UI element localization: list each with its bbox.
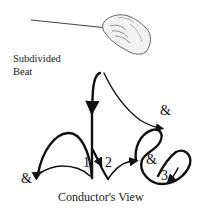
diagram-title-line1: Subdivided bbox=[13, 54, 61, 65]
beat-label-and-left: & bbox=[21, 172, 32, 186]
beat-label-one: 1 bbox=[83, 156, 90, 170]
beat-label-three: 3 bbox=[161, 169, 168, 183]
beat-label-and-top: & bbox=[160, 104, 171, 118]
down-arrow-icon bbox=[89, 108, 95, 116]
diagram-title-line2: Beat bbox=[13, 67, 32, 78]
beat-label-and-right: & bbox=[146, 153, 157, 167]
beat-label-two: 2 bbox=[105, 156, 112, 170]
baton-hand-illustration bbox=[31, 15, 151, 54]
diagram-caption: Conductor's View bbox=[58, 191, 144, 203]
